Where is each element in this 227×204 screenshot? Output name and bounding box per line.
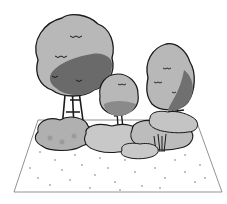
large-round-tree (36, 15, 113, 128)
garden-illustration (0, 0, 227, 204)
